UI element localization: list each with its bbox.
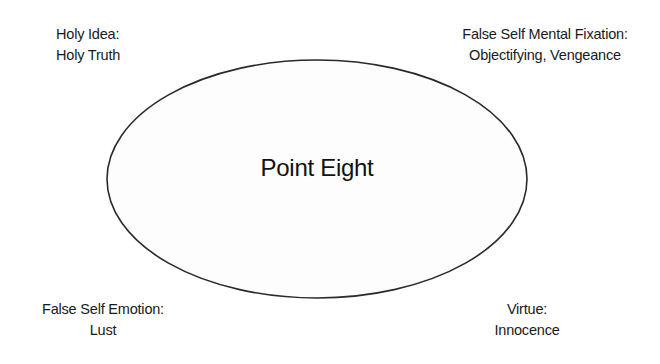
emotion-value: Lust	[28, 320, 178, 341]
virtue-title: Virtue:	[487, 299, 567, 320]
mental-fixation-label: False Self Mental Fixation: Objectifying…	[440, 24, 650, 66]
holy-idea-value: Holy Truth	[56, 45, 120, 66]
mental-fixation-title: False Self Mental Fixation:	[440, 24, 650, 45]
virtue-label: Virtue: Innocence	[487, 299, 567, 341]
holy-idea-label: Holy Idea: Holy Truth	[56, 24, 120, 66]
mental-fixation-value: Objectifying, Vengeance	[440, 45, 650, 66]
emotion-label: False Self Emotion: Lust	[28, 299, 178, 341]
emotion-title: False Self Emotion:	[28, 299, 178, 320]
holy-idea-title: Holy Idea:	[56, 24, 120, 45]
center-label: Point Eight	[217, 153, 417, 183]
virtue-value: Innocence	[487, 320, 567, 341]
